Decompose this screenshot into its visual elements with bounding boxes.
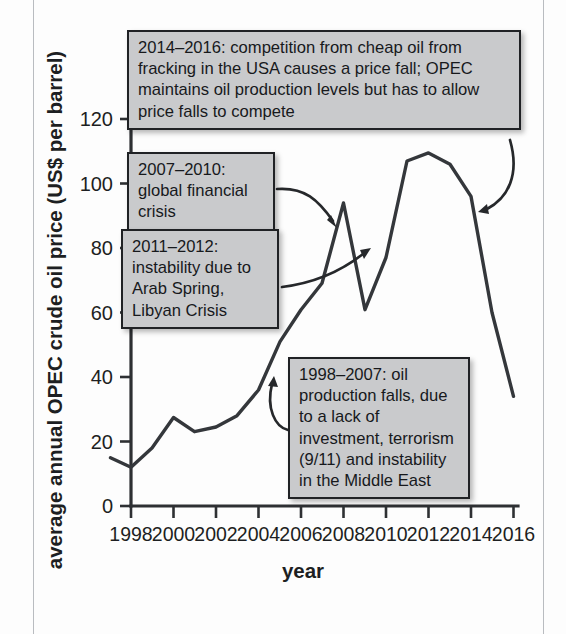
y-tick-label-100: 100: [80, 173, 113, 195]
x-axis-ticks: [131, 506, 514, 518]
x-tick-label-2002: 2002: [194, 523, 237, 545]
y-tick-label-20: 20: [91, 431, 113, 453]
x-tick-label-2008: 2008: [322, 523, 365, 545]
y-tick-label-0: 0: [102, 495, 113, 517]
x-tick-label-2016: 2016: [492, 523, 535, 545]
callout-2007-2010: 2007–2010: global financial crisis: [127, 152, 275, 231]
x-tick-label-2004: 2004: [237, 523, 281, 545]
callout-2014-2016: 2014–2016: competition from cheap oil fr…: [127, 30, 521, 130]
leader-2014-2016: [478, 140, 514, 214]
x-tick-label-2000: 2000: [152, 523, 196, 545]
x-tick-label-2010: 2010: [364, 523, 408, 545]
y-tick-label-120: 120: [80, 108, 113, 130]
callout-2011-2012: 2011–2012: instability due to Arab Sprin…: [121, 229, 279, 329]
y-tick-label-80: 80: [91, 237, 113, 259]
x-axis-title: year: [282, 559, 324, 582]
x-tick-label-2012: 2012: [407, 523, 450, 545]
x-tick-label-2014: 2014: [449, 523, 493, 545]
y-axis-tick-labels: 0 20 40 60 80 100 120: [80, 108, 113, 517]
y-tick-label-60: 60: [91, 302, 113, 324]
x-tick-label-2006: 2006: [279, 523, 322, 545]
callout-1998-2007: 1998–2007: oil production falls, due to …: [288, 357, 470, 499]
y-tick-label-40: 40: [91, 366, 113, 388]
x-axis-tick-labels: 1998 2000 2002 2004 2006 2008 2010 2012 …: [109, 523, 535, 545]
x-tick-label-1998: 1998: [109, 523, 152, 545]
page-canvas: 0 20 40 60 80 100 120 1998 2000 2002 2: [0, 0, 566, 634]
leader-2007-2010: [277, 189, 337, 228]
y-axis-title: average annual OPEC crude oil price (US$…: [43, 51, 66, 569]
leader-1998-2007: [268, 376, 288, 430]
